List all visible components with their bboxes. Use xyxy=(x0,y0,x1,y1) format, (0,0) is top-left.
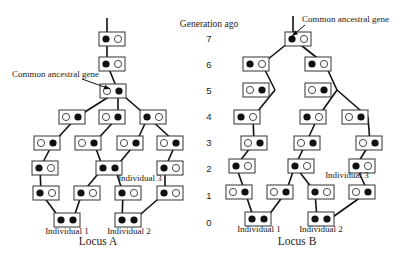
filled-gene-icon xyxy=(282,188,289,195)
individual-box xyxy=(305,57,331,71)
generation-tick-label: 0 xyxy=(206,217,211,228)
individual-box xyxy=(34,136,60,150)
individual-box xyxy=(356,136,382,150)
common-ancestral-gene-label: Common ancestral gene xyxy=(302,14,389,24)
common-ancestral-gene-label: Common ancestral gene xyxy=(12,69,99,79)
filled-gene-icon xyxy=(74,113,81,120)
individual-box xyxy=(234,110,260,124)
filled-gene-icon xyxy=(260,215,267,222)
individual-box xyxy=(75,136,101,150)
filled-gene-icon xyxy=(256,139,263,146)
individual-box xyxy=(59,110,85,124)
open-gene-icon xyxy=(102,113,109,120)
individual-box xyxy=(157,136,183,150)
generation-tick-label: 3 xyxy=(206,137,211,148)
filled-gene-icon xyxy=(160,164,167,171)
filled-gene-icon xyxy=(371,139,378,146)
open-gene-icon xyxy=(130,189,137,196)
individual-box xyxy=(157,186,183,200)
individual-box xyxy=(32,161,58,175)
filled-gene-icon xyxy=(232,162,239,169)
generation-tick-label: 4 xyxy=(206,111,211,122)
generation-tick-label: 2 xyxy=(206,163,211,174)
individual-box xyxy=(140,110,166,124)
individual-box xyxy=(294,136,320,150)
filled-gene-icon xyxy=(77,189,84,196)
filled-gene-icon xyxy=(248,215,255,222)
open-gene-icon xyxy=(229,188,236,195)
individual-box xyxy=(74,186,100,200)
individual-boxes xyxy=(226,32,382,226)
individual-box xyxy=(241,136,267,150)
open-gene-icon xyxy=(160,139,167,146)
filled-gene-icon xyxy=(57,216,64,223)
filled-gene-icon xyxy=(102,60,109,67)
individual-box xyxy=(229,159,255,173)
open-gene-icon xyxy=(300,35,307,42)
generation-axis-label: Generation ago xyxy=(180,19,239,29)
open-gene-icon xyxy=(323,188,330,195)
individual-box xyxy=(243,57,269,71)
filled-gene-icon xyxy=(115,87,122,94)
open-gene-icon xyxy=(359,139,366,146)
filled-gene-icon xyxy=(291,162,298,169)
open-gene-icon xyxy=(352,188,359,195)
individual-label: Individual 1 xyxy=(237,224,281,234)
open-gene-icon xyxy=(297,139,304,146)
filled-gene-icon xyxy=(320,86,327,93)
filled-gene-icon xyxy=(99,164,106,171)
individual-box xyxy=(115,213,141,227)
individual-box xyxy=(115,186,141,200)
filled-gene-icon xyxy=(132,139,139,146)
individual-box xyxy=(117,136,143,150)
filled-gene-icon xyxy=(303,113,310,120)
generation-tick-label: 7 xyxy=(206,33,211,44)
open-gene-icon xyxy=(172,164,179,171)
individual-box xyxy=(100,84,126,98)
open-gene-icon xyxy=(270,188,277,195)
individual-box xyxy=(243,83,269,97)
filled-gene-icon xyxy=(323,215,330,222)
open-gene-icon xyxy=(320,60,327,67)
filled-gene-icon xyxy=(311,215,318,222)
open-gene-icon xyxy=(172,189,179,196)
individual-box xyxy=(308,185,334,199)
filled-gene-icon xyxy=(118,189,125,196)
open-gene-icon xyxy=(48,189,55,196)
filled-gene-icon xyxy=(118,216,125,223)
open-gene-icon xyxy=(308,86,315,93)
individual-label: Individual 3 xyxy=(118,173,162,183)
locus-caption: Locus A xyxy=(79,235,118,247)
open-gene-icon xyxy=(89,189,96,196)
open-gene-icon xyxy=(244,162,251,169)
filled-gene-icon xyxy=(352,162,359,169)
individual-box xyxy=(99,57,125,71)
open-gene-icon xyxy=(155,113,162,120)
filled-gene-icon xyxy=(130,216,137,223)
open-gene-icon xyxy=(62,113,69,120)
individual-box xyxy=(99,32,125,46)
filled-gene-icon xyxy=(90,139,97,146)
locus-caption: Locus B xyxy=(278,235,317,247)
generation-tick-label: 5 xyxy=(206,85,211,96)
generation-tick-label: 6 xyxy=(206,59,211,70)
individual-box xyxy=(33,186,59,200)
filled-gene-icon xyxy=(311,188,318,195)
filled-gene-icon xyxy=(308,60,315,67)
filled-gene-icon xyxy=(237,113,244,120)
individual-label: Individual 2 xyxy=(299,224,343,234)
individual-label: Individual 3 xyxy=(325,170,369,180)
filled-gene-icon xyxy=(172,139,179,146)
individual-box xyxy=(349,185,375,199)
filled-gene-icon xyxy=(102,35,109,42)
individual-box xyxy=(300,110,326,124)
filled-gene-icon xyxy=(246,60,253,67)
filled-gene-icon xyxy=(114,113,121,120)
individual-box xyxy=(267,185,293,199)
open-gene-icon xyxy=(258,60,265,67)
open-gene-icon xyxy=(47,164,54,171)
filled-gene-icon xyxy=(36,189,43,196)
filled-gene-icon xyxy=(111,164,118,171)
open-gene-icon xyxy=(114,35,121,42)
locus-a-genealogy: Common ancestral geneIndividual 1Individ… xyxy=(12,18,183,247)
